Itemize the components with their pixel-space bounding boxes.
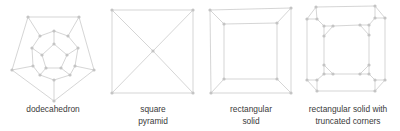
edge [33, 66, 40, 75]
vertex-dot [76, 46, 79, 49]
vertex-dot [322, 34, 325, 37]
dodecahedron-graph [10, 15, 95, 102]
label-line: rectangular [230, 103, 272, 115]
edge [12, 70, 54, 101]
vertex-dot [30, 46, 33, 49]
vertex-dot [222, 77, 225, 80]
vertex-dot [208, 8, 211, 11]
edge [54, 75, 70, 80]
edge [75, 66, 94, 70]
edge [54, 70, 94, 101]
edge [360, 25, 369, 35]
vertex-dot [367, 72, 370, 75]
vertex-dot [65, 53, 68, 56]
vertex-dot [383, 78, 386, 81]
vertex-dot [52, 42, 55, 45]
edge [68, 17, 79, 36]
edge [112, 51, 153, 93]
vertex-dot [322, 24, 325, 27]
vertex-dot [38, 73, 41, 76]
vertex-dot [315, 78, 318, 81]
edge [210, 10, 211, 93]
polyhedra-diagram: dodecahedron square pyramid rectangular … [0, 0, 400, 131]
vertex-dot [68, 73, 71, 76]
vertex-dot [367, 33, 370, 36]
vertex-dot [59, 66, 62, 69]
label-line: solid [230, 115, 272, 127]
edge [28, 17, 40, 36]
vertex-dot [315, 17, 318, 20]
vertex-dot [77, 15, 80, 18]
edge [12, 17, 28, 70]
label-line: dodecahedron [26, 103, 79, 115]
edge [316, 7, 317, 19]
label-line: truncated corners [309, 115, 388, 127]
label-line: square [138, 103, 168, 115]
vertex-dot [373, 16, 376, 19]
vertex-dot [92, 68, 95, 71]
vertex-dot [322, 72, 325, 75]
vertex-dot [66, 34, 69, 37]
edge [75, 48, 78, 66]
vertex-dot [373, 78, 376, 81]
edge [68, 36, 78, 48]
vertex-dot [289, 91, 292, 94]
dodecahedron-label: dodecahedron [26, 103, 79, 115]
label-line: pyramid [138, 115, 168, 127]
edge [54, 44, 67, 55]
square-pyramid-graph [110, 8, 194, 94]
edge [40, 31, 54, 36]
vertex-dot [331, 72, 334, 75]
edge [54, 31, 68, 36]
vertex-dot [305, 17, 308, 20]
edge [153, 10, 193, 51]
vertex-dot [315, 89, 318, 92]
vertex-dot [38, 34, 41, 37]
edge [61, 68, 70, 75]
vertex-dot [322, 63, 325, 66]
vertex-dot [367, 63, 370, 66]
edge [210, 8, 291, 10]
edge [210, 10, 224, 24]
edge [42, 55, 46, 68]
edge [32, 36, 40, 48]
vertex-dot [305, 78, 308, 81]
label-line: rectangular solid with [309, 103, 388, 115]
vertex-dot [209, 91, 212, 94]
truncated-rectangular-solid-label: rectangular solid with truncated corners [309, 103, 388, 127]
edge [79, 17, 94, 70]
truncated-rectangular-solid-graph [305, 4, 386, 92]
edge [324, 65, 333, 74]
edge [32, 48, 33, 66]
vertex-dot [383, 16, 386, 19]
vertex-dot [110, 91, 113, 94]
edge [61, 55, 67, 68]
vertex-dot [191, 91, 194, 94]
edge [360, 65, 369, 74]
vertex-dot [26, 15, 29, 18]
edge [316, 6, 375, 7]
vertex-dot [331, 24, 334, 27]
vertex-dot [44, 66, 47, 69]
edge [40, 75, 54, 80]
rectangular-solid-label: rectangular solid [230, 103, 272, 127]
vertex-dot [31, 64, 34, 67]
edge [153, 51, 193, 93]
vertex-dot [314, 5, 317, 8]
vertex-dot [358, 23, 361, 26]
vertex-dot [40, 53, 43, 56]
edge [42, 44, 54, 55]
square-pyramid-label: square pyramid [138, 103, 168, 127]
vertex-dot [275, 21, 278, 24]
edge [224, 23, 277, 24]
edge [112, 10, 153, 51]
edge [277, 8, 291, 23]
edge [333, 25, 360, 26]
edge [307, 7, 316, 19]
edge [211, 79, 224, 93]
edge [277, 79, 291, 93]
vertex-dot [275, 77, 278, 80]
vertex-dot [373, 89, 376, 92]
edge [375, 80, 385, 91]
edge [324, 26, 333, 36]
